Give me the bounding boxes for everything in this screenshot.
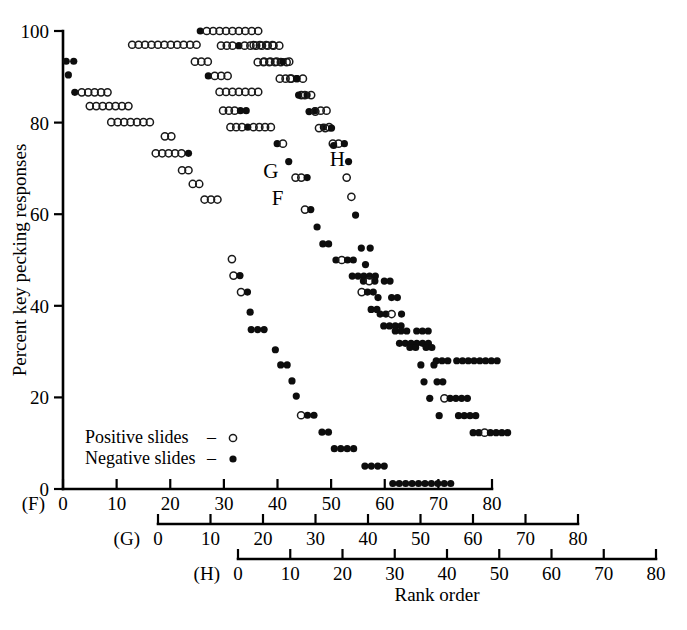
series-label-G: G [263, 159, 278, 183]
x-axis-prefix-H: (H) [194, 563, 220, 585]
data-point-negative-slide [447, 480, 454, 487]
x-tick-label-F: 50 [322, 493, 341, 514]
x-tick-label-F: 60 [375, 493, 394, 514]
data-point-negative-slide [441, 480, 448, 487]
x-tick-label-G: 10 [201, 528, 220, 549]
data-point-negative-slide [434, 480, 441, 487]
x-tick-label-F: 0 [58, 493, 68, 514]
data-point-negative-slide [430, 361, 437, 368]
x-tick-label-H: 30 [385, 563, 404, 584]
data-point-negative-slide [415, 480, 422, 487]
data-point-negative-slide [396, 480, 403, 487]
x-axis-title: Rank order [395, 584, 481, 605]
y-tick-label: 20 [30, 387, 49, 408]
data-point-negative-slide [344, 445, 351, 452]
data-point-negative-slide [272, 346, 279, 353]
data-point-negative-slide [350, 445, 357, 452]
data-point-negative-slide [361, 463, 368, 470]
x-tick-label-G: 20 [254, 528, 273, 549]
data-point-negative-slide [328, 124, 335, 131]
data-point-negative-slide [444, 357, 451, 364]
data-point-negative-slide [374, 294, 381, 301]
x-tick-label-H: 20 [333, 563, 352, 584]
data-point-negative-slide [402, 480, 409, 487]
data-point-positive-slide [230, 272, 237, 279]
data-point-negative-slide [310, 412, 317, 419]
y-tick-label: 80 [30, 113, 49, 134]
data-point-negative-slide [318, 429, 325, 436]
data-point-negative-slide [248, 326, 255, 333]
data-point-positive-slide [228, 255, 235, 262]
x-axis-prefix-G: (G) [114, 528, 140, 550]
data-point-negative-slide [417, 361, 424, 368]
data-point-negative-slide [304, 174, 311, 181]
data-point-negative-slide [254, 326, 261, 333]
x-tick-label-G: 80 [569, 528, 588, 549]
data-point-negative-slide [71, 89, 78, 96]
data-point-negative-slide [293, 75, 300, 82]
data-point-negative-slide [403, 327, 410, 334]
legend-label-negative: Negative slides [85, 448, 195, 468]
data-point-negative-slide [63, 58, 70, 65]
data-point-negative-slide [368, 463, 375, 470]
y-axis-title: Percent key pecking responses [9, 144, 30, 377]
data-point-negative-slide [464, 395, 471, 402]
data-point-negative-slide [412, 344, 419, 351]
data-point-positive-slide [343, 174, 350, 181]
data-point-negative-slide [313, 223, 320, 230]
data-point-negative-slide [284, 361, 291, 368]
legend-marker-open-circle-icon [229, 434, 236, 441]
data-point-negative-slide [472, 412, 479, 419]
data-point-negative-slide [185, 150, 192, 157]
data-point-negative-slide [244, 288, 251, 295]
y-tick-label: 100 [21, 21, 50, 42]
data-point-negative-slide [350, 256, 357, 263]
data-point-positive-slide [297, 412, 304, 419]
data-point-negative-slide [243, 107, 250, 114]
data-point-negative-slide [325, 429, 332, 436]
x-axis-prefix-F: (F) [22, 493, 45, 515]
x-tick-label-F: 30 [214, 493, 233, 514]
x-tick-label-F: 80 [483, 493, 502, 514]
data-point-negative-slide [331, 445, 338, 452]
x-tick-label-G: 30 [306, 528, 325, 549]
x-tick-label-H: 60 [542, 563, 561, 584]
legend-dash: – [206, 448, 217, 468]
data-point-negative-slide [70, 58, 77, 65]
data-point-negative-slide [293, 392, 300, 399]
data-point-negative-slide [358, 244, 365, 251]
data-point-positive-slide [348, 193, 355, 200]
axis-titles: Rank orderPercent key pecking responses [9, 144, 480, 605]
legend-marker-filled-circle-icon [229, 455, 236, 462]
y-tick-label: 40 [30, 296, 49, 317]
data-point-negative-slide [408, 480, 415, 487]
x-tick-label-H: 10 [281, 563, 300, 584]
data-point-negative-slide [260, 326, 267, 333]
y-tick-label: 60 [30, 204, 49, 225]
data-point-negative-slide [394, 294, 401, 301]
data-point-negative-slide [381, 463, 388, 470]
data-point-negative-slide [426, 395, 433, 402]
data-point-negative-slide [389, 480, 396, 487]
x-tick-label-G: 50 [411, 528, 430, 549]
data-point-negative-slide [436, 412, 443, 419]
legend: Positive slides–Negative slides– [85, 427, 237, 468]
figure-container: 020406080100 01020304050607080(F)0102030… [0, 0, 687, 630]
data-point-negative-slide [307, 206, 314, 213]
x-tick-label-F: 70 [429, 493, 448, 514]
x-tick-label-F: 40 [268, 493, 287, 514]
data-point-negative-slide [362, 261, 369, 268]
data-point-negative-slide [420, 378, 427, 385]
data-point-negative-slide [504, 429, 511, 436]
data-point-negative-slide [428, 480, 435, 487]
data-point-negative-slide [374, 463, 381, 470]
data-point-negative-slide [428, 344, 435, 351]
x-tick-label-H: 50 [490, 563, 509, 584]
data-point-positive-slide [237, 288, 244, 295]
scatter-plot: 020406080100 01020304050607080(F)0102030… [0, 0, 687, 630]
data-point-negative-slide [370, 288, 377, 295]
x-tick-label-H: 70 [594, 563, 613, 584]
data-point-negative-slide [345, 158, 352, 165]
x-axes: 01020304050607080(F)01020304050607080(G)… [22, 479, 666, 585]
data-point-negative-slide [398, 310, 405, 317]
